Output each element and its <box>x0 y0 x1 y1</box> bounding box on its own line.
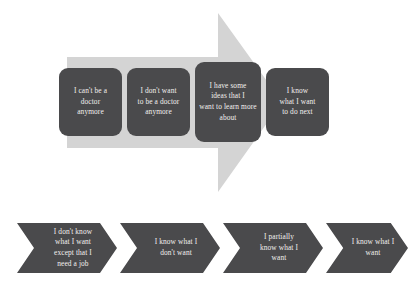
chevron-4-label: I know what I want <box>352 237 395 258</box>
chevron-2-label: I know what I don't want <box>155 237 198 258</box>
chevron-1[interactable]: I don't know what I want except that I n… <box>17 223 117 273</box>
chevron-2[interactable]: I know what I don't want <box>120 223 220 273</box>
chevron-3-label: I partially know what I want <box>260 232 298 264</box>
career-progression-diagram: I can't be a doctor anymore I don't want… <box>0 0 409 285</box>
chevron-1-label: I don't know what I want except that I n… <box>54 227 92 269</box>
bottom-chevron-row: I don't know what I want except that I n… <box>0 0 409 285</box>
chevron-4[interactable]: I know what I want <box>326 223 408 273</box>
chevron-3[interactable]: I partially know what I want <box>223 223 323 273</box>
